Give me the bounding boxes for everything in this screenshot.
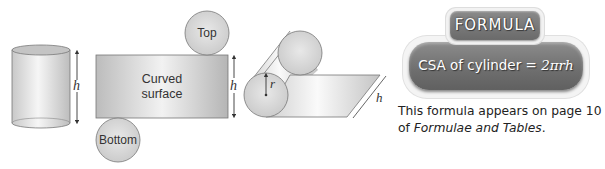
cylinder-height-label: h <box>73 78 80 93</box>
formula-badge: CSA of cylinder = 2πrh FORMULA <box>403 6 589 98</box>
note-book-title: Formulae and Tables <box>414 121 542 135</box>
bottom-circle-label: Bottom <box>99 133 137 147</box>
note-line-2: of Formulae and Tables. <box>398 120 603 137</box>
cylinder-shape <box>12 45 70 128</box>
note-prefix: of <box>398 121 414 135</box>
formula-text: CSA of cylinder = <box>418 57 541 73</box>
curved-surface-label-line1: Curved <box>142 72 182 86</box>
formula-title-frame: FORMULA <box>446 8 544 44</box>
formula-title: FORMULA <box>450 11 540 40</box>
note-suffix: . <box>542 121 546 135</box>
top-circle-label: Top <box>197 26 217 40</box>
formula-note: This formula appears on page 10 of Formu… <box>398 103 603 137</box>
net-height-label: h <box>230 78 237 93</box>
curved-surface-label-line2: surface <box>142 87 183 101</box>
note-line-1: This formula appears on page 10 <box>398 103 603 120</box>
formula-pill: CSA of cylinder = 2πrh <box>409 42 583 90</box>
formula-expression: 2πrh <box>541 57 574 73</box>
rolled-height-label: h <box>376 90 383 105</box>
rolling-cylinder-shape <box>244 31 386 118</box>
formula-pill-frame: CSA of cylinder = 2πrh <box>403 36 589 98</box>
